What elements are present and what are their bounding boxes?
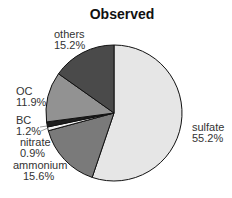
label-oc-pct: 11.9% [16,97,46,108]
label-others: others 15.2% [54,29,85,51]
label-nitrate: nitrate 0.9% [20,137,51,159]
label-sulfate: sulfate 55.2% [192,122,224,144]
leader-line-nitrate [41,128,48,131]
label-bc: BC 1.2% [16,115,41,137]
label-oc: OC 11.9% [16,86,46,108]
label-sulfate-pct: 55.2% [192,133,224,144]
label-ammonium-pct: 15.6% [13,171,67,182]
label-ammonium: ammonium 15.6% [13,160,67,182]
label-nitrate-pct: 0.9% [20,148,51,159]
label-others-pct: 15.2% [54,40,85,51]
